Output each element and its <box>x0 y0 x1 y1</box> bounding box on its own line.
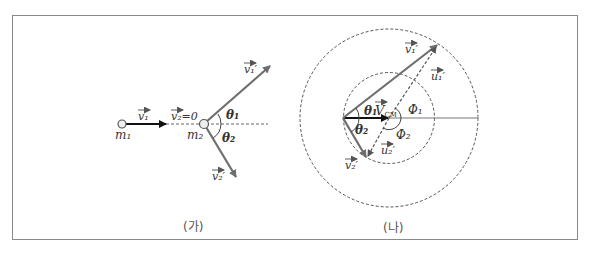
v1-prime-label: v₁′ <box>244 63 258 76</box>
theta2-label-b: θ₂ <box>355 123 368 137</box>
phi1-label: Φ₁ <box>408 103 423 117</box>
theta1-label: θ₁ <box>226 108 239 122</box>
v2-prime-label: v₂′ <box>212 170 226 183</box>
v1-prime-label-b: v₁′ <box>405 43 419 56</box>
theta1-arc <box>218 114 221 124</box>
u2-prime-label: u₂′ <box>381 144 395 157</box>
phi2-label: Φ₂ <box>396 128 411 142</box>
m1-label: m₁ <box>115 128 131 142</box>
v1-label: v₁ <box>138 110 149 123</box>
m2-label: m₂ <box>187 128 203 142</box>
panel-a-lab-frame: m₁ v₁ v₂=0 m₂ θ₁ θ₂ v₁′ v₂′ (가) <box>115 63 270 234</box>
m1-ball-icon <box>118 120 126 128</box>
panel-b-cm-frame: v₁′ u₁′ θ₁ VCM Φ₁ θ₂ Φ₂ u₂′ v₂′ (나) <box>300 29 478 235</box>
v2-prime-label-b: v₂′ <box>345 159 359 172</box>
theta1-arc-b <box>356 108 359 118</box>
v-cm-label: VCM <box>375 103 397 119</box>
collision-diagram: m₁ v₁ v₂=0 m₂ θ₁ θ₂ v₁′ v₂′ (가) <box>0 0 590 254</box>
v1-prime-arrow-b <box>343 45 437 118</box>
u1-prime-label: u₁′ <box>431 70 445 83</box>
panel-a-caption: (가) <box>183 220 203 234</box>
v2-zero-label: v₂=0 <box>171 110 198 123</box>
theta2-arc <box>213 124 221 138</box>
theta2-label: θ₂ <box>222 131 235 145</box>
panel-b-caption: (나) <box>383 221 403 235</box>
